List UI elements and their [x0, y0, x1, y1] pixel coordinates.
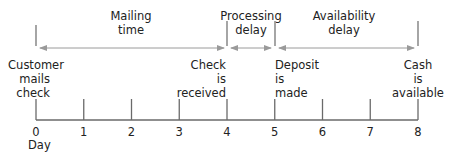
tick-label: 8 [414, 125, 421, 139]
tick-label: 0 [32, 125, 39, 139]
tick-label: 1 [80, 125, 87, 139]
event-label-line: is [275, 72, 284, 86]
axis-label: Day [28, 138, 51, 152]
tick-label: 2 [128, 125, 135, 139]
event-cash-is-available: Cash is available [392, 58, 444, 100]
interval-availability-delay: Availability delay [279, 9, 414, 48]
interval-label-line: Processing [220, 9, 281, 23]
event-label-line: Deposit [275, 58, 319, 72]
day-axis: 0 1 2 3 4 5 6 7 8 Day [28, 99, 422, 152]
event-label-line: Customer [8, 58, 64, 72]
event-label-line: check [16, 86, 50, 100]
interval-label-line: time [118, 23, 144, 37]
event-label-line: Check [191, 58, 227, 72]
event-deposit-is-made: Deposit is made [275, 58, 319, 100]
event-check-is-received: Check is received [177, 58, 227, 100]
interval-mailing-time: Mailing time [40, 9, 224, 48]
event-label-line: is [413, 72, 422, 86]
event-label-line: received [177, 86, 226, 100]
tick-label: 5 [271, 125, 278, 139]
event-label-line: is [217, 72, 226, 86]
interval-label-line: Mailing [110, 9, 151, 23]
interval-processing-delay: Processing delay [220, 9, 281, 48]
tick-label: 4 [223, 125, 230, 139]
event-label-line: mails [19, 72, 50, 86]
interval-label-line: delay [235, 23, 267, 37]
event-customer-mails-check: Customer mails check [8, 58, 64, 100]
event-label-line: made [275, 86, 308, 100]
tick-label: 3 [176, 125, 183, 139]
event-label-line: available [392, 86, 444, 100]
event-label-line: Cash [404, 58, 432, 72]
interval-label-line: Availability [313, 9, 376, 23]
timeline-diagram: Mailing time Processing delay Availabili… [0, 0, 450, 156]
tick-label: 7 [367, 125, 374, 139]
tick-label: 6 [319, 125, 326, 139]
interval-label-line: delay [328, 23, 360, 37]
